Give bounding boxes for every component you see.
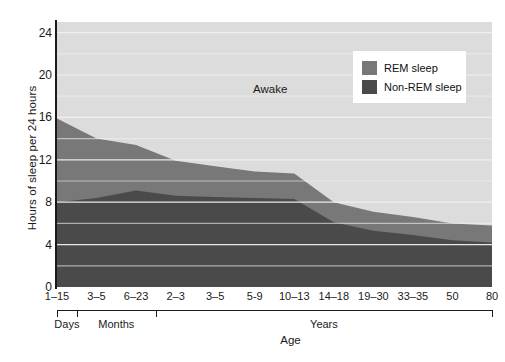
x-axis-tick-label: 80 xyxy=(486,290,498,302)
awake-region-label: Awake xyxy=(253,83,287,95)
x-axis-tick-label: 2–3 xyxy=(166,290,184,302)
y-axis-tick-label: 8 xyxy=(6,195,52,209)
y-axis-tick-label: 4 xyxy=(6,238,52,252)
x-axis-tick-label: 33–35 xyxy=(398,290,429,302)
age-group-rule-tick xyxy=(57,310,58,317)
legend-item-rem-sleep[interactable]: REM sleep xyxy=(362,61,458,75)
age-group-label: Years xyxy=(310,318,338,330)
age-group-rule-tick xyxy=(156,310,157,317)
non-rem-sleep-swatch xyxy=(362,80,377,94)
age-group-rule-tick xyxy=(492,310,493,317)
age-group-label: Months xyxy=(98,318,134,330)
legend-item-non-rem-sleep[interactable]: Non-REM sleep xyxy=(362,80,458,94)
x-axis-tick-label: 3–5 xyxy=(87,290,105,302)
non-rem-sleep-area xyxy=(57,191,492,287)
age-group-label: Days xyxy=(54,318,79,330)
x-axis-tick-label: 1–15 xyxy=(45,290,69,302)
x-axis-tick-label: 6–23 xyxy=(124,290,148,302)
age-group-rule-line xyxy=(57,310,492,311)
legend-label-non-rem-sleep: Non-REM sleep xyxy=(384,81,462,93)
x-axis-tick-label: 19–30 xyxy=(358,290,389,302)
x-axis-title-text: Age xyxy=(280,334,300,346)
y-axis-tick-label: 20 xyxy=(6,68,52,82)
legend-label-rem-sleep: REM sleep xyxy=(384,62,438,74)
x-axis-title: Age xyxy=(0,334,505,346)
sleep-stages-area-chart: Hours of sleep per 24 hours 24201612840 … xyxy=(0,0,505,362)
x-axis-tick-labels: 1–153–56–232–33–55-910–1314–1819–3033–35… xyxy=(0,290,505,306)
rem-sleep-swatch xyxy=(362,61,377,75)
x-axis-tick-label: 50 xyxy=(446,290,458,302)
x-axis-tick-label: 14–18 xyxy=(319,290,350,302)
x-axis-tick-label: 10–13 xyxy=(279,290,310,302)
y-axis-tick-label: 24 xyxy=(6,26,52,40)
y-axis-tick-label: 16 xyxy=(6,110,52,124)
age-group-rule-tick xyxy=(77,310,78,317)
x-axis-tick-label: 3–5 xyxy=(206,290,224,302)
x-axis-tick-label: 5-9 xyxy=(247,290,263,302)
chart-legend: REM sleep Non-REM sleep xyxy=(353,51,466,103)
y-axis-tick-label: 12 xyxy=(6,153,52,167)
